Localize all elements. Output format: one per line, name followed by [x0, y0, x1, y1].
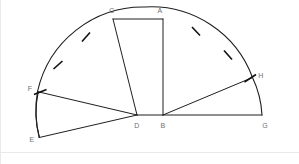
tick-arc-right-lower	[224, 51, 232, 60]
figure-canvas: A B C D E F G H	[0, 0, 299, 164]
segment-DE	[39, 115, 137, 138]
point-label-D: D	[134, 122, 139, 129]
point-label-A: A	[158, 7, 163, 14]
point-label-F: F	[28, 85, 32, 92]
point-label-C: C	[109, 7, 114, 14]
point-label-H: H	[258, 72, 263, 79]
arc-E-to-F	[36, 92, 39, 138]
major-arc	[36, 7, 253, 138]
geometry-diagram: A B C D E F G H	[0, 0, 299, 164]
tick-arc-right-upper	[192, 27, 200, 36]
arc-H-to-G	[253, 78, 263, 116]
segment-BH	[163, 78, 253, 116]
tick-arc-left-lower	[54, 61, 63, 69]
segment-CD	[113, 19, 137, 115]
segment-DF	[38, 92, 137, 115]
tick-arc-left-upper	[82, 33, 90, 42]
point-label-G: G	[262, 122, 268, 129]
point-label-B: B	[161, 122, 166, 129]
point-label-E: E	[30, 136, 35, 143]
